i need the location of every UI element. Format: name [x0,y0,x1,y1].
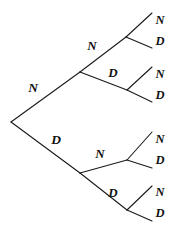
branch-label-level2-0: N [87,39,96,52]
branch-lower-to-dd [80,173,127,210]
branch-label-level3-5: D [155,154,164,167]
level1-branch-group [11,72,80,173]
branch-label-level2-3: D [108,186,117,199]
branch-label-level1-0: N [28,81,38,95]
branch-dd-to-n [127,186,152,210]
branch-dn-to-d [127,160,152,168]
tree-branches-svg [0,0,175,234]
level3-branch-group [126,13,152,221]
branch-label-level2-1: D [108,66,117,79]
branch-nd-to-n [127,67,152,90]
branch-lower-to-dn [80,160,127,173]
probability-tree-diagram: NDNDNDNDNDNDND [0,0,175,234]
level2-branch-group [80,37,127,210]
branch-nn-to-d [126,37,152,48]
branch-dd-to-d [127,210,152,221]
branch-upper-to-nd [80,72,127,90]
branch-label-level3-2: N [155,68,164,81]
branch-dn-to-n [127,132,152,160]
branch-label-level3-0: N [155,14,164,27]
branch-nn-to-n [126,13,152,37]
branch-label-level2-2: N [95,147,104,160]
branch-label-level3-7: D [155,207,164,220]
branch-root-to-upper [11,72,80,122]
branch-label-level3-4: N [155,133,164,146]
branch-nd-to-d [127,90,152,102]
branch-label-level3-6: N [155,186,164,199]
branch-root-to-lower [11,122,80,173]
branch-label-level3-3: D [155,89,164,102]
branch-label-level1-1: D [51,133,61,147]
branch-label-level3-1: D [155,35,164,48]
